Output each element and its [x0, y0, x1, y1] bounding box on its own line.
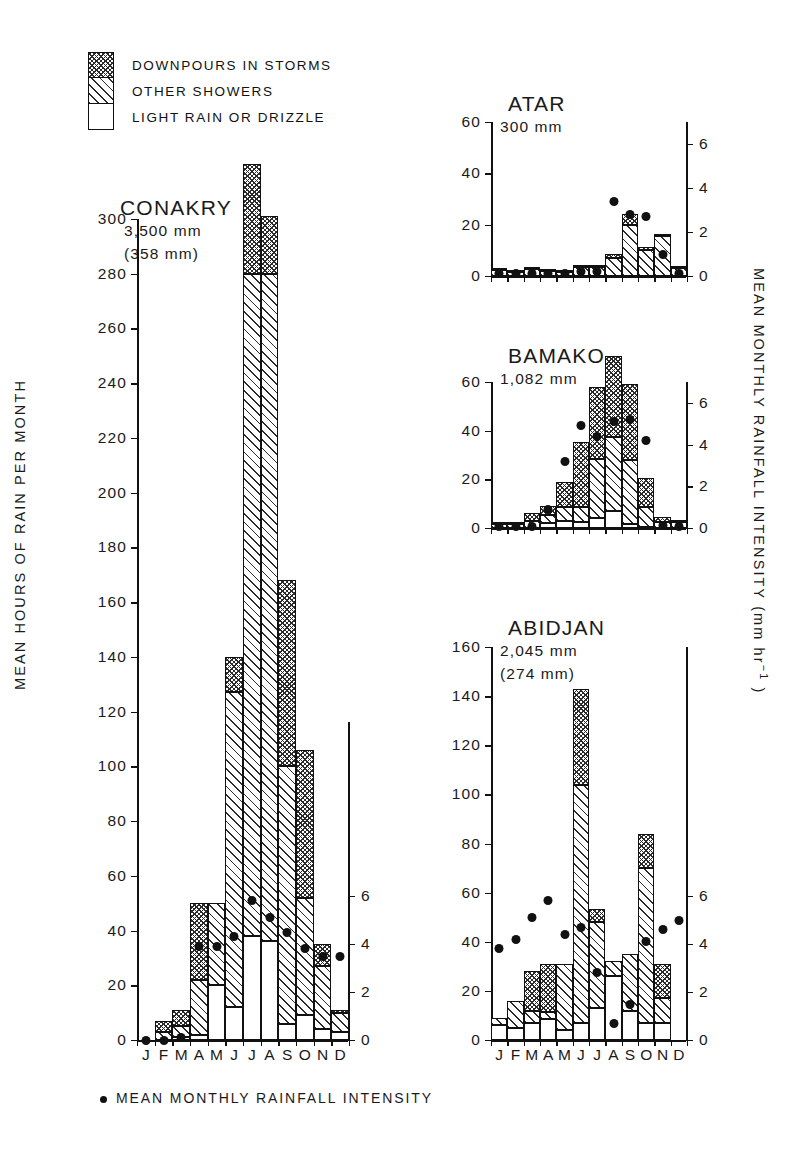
y-axis-right-tick [686, 896, 693, 897]
y-axis-tick [485, 794, 492, 795]
x-axis-month-label: A [608, 1046, 618, 1064]
bar-segment-drizzle [540, 1019, 556, 1040]
intensity-dot [544, 896, 553, 905]
intensity-dot [511, 935, 520, 944]
x-axis-month-label: F [511, 1046, 520, 1064]
y-axis-right-close: ) [751, 681, 767, 694]
x-axis-tick [638, 1040, 639, 1046]
x-axis-tick [491, 1040, 492, 1046]
bar-segment-showers [556, 964, 572, 1030]
intensity-dot [674, 916, 683, 925]
y-axis-right-text: MEAN MONTHLY RAINFALL INTENSITY (mm hr [751, 268, 767, 665]
bar-segment-showers [540, 1012, 556, 1019]
y-axis-tick-label: 100 [413, 785, 481, 803]
bar-segment-showers [491, 1018, 507, 1025]
y-axis-tick [485, 745, 492, 746]
bar-segment-drizzle [507, 1028, 523, 1040]
y-axis-right-tick [686, 944, 693, 945]
bar-segment-downpours [654, 964, 670, 998]
bar-A-3 [540, 964, 556, 1040]
y-axis-tick [485, 942, 492, 943]
y-axis-tick [485, 844, 492, 845]
y-axis-right-tick-label: 0 [699, 1031, 709, 1049]
y-axis-right-tick [686, 992, 693, 993]
bar-segment-showers [573, 785, 589, 1023]
bar-A-7 [605, 961, 621, 1040]
x-axis-month-label: A [543, 1046, 553, 1064]
bar-segment-drizzle [573, 1023, 589, 1040]
bar-segment-downpours [573, 689, 589, 785]
bar-segment-downpours [524, 971, 540, 1010]
x-axis-month-label: M [558, 1046, 571, 1064]
caption-dot-icon [100, 1096, 107, 1103]
bar-segment-drizzle [491, 1025, 507, 1040]
x-axis-tick [654, 1040, 655, 1046]
y-axis-tick [485, 893, 492, 894]
x-axis-tick [605, 1040, 606, 1046]
x-axis-month-label: J [577, 1046, 585, 1064]
y-axis-tick-label: 60 [413, 884, 481, 902]
x-axis-month-label: J [495, 1046, 503, 1064]
bar-segment-downpours [589, 909, 605, 923]
bar-segment-drizzle [622, 1011, 638, 1040]
x-axis-tick [507, 1040, 508, 1046]
bar-segment-drizzle [556, 1030, 572, 1040]
figure-root: DOWNPOURS IN STORMS OTHER SHOWERS LIGHT … [0, 0, 796, 1160]
figure-caption: MEAN MONTHLY RAINFALL INTENSITY [100, 1090, 433, 1106]
bar-segment-showers [605, 961, 621, 976]
x-axis-tick [540, 1040, 541, 1046]
y-axis-right-exponent: −1 [758, 665, 770, 682]
intensity-dot [593, 968, 602, 977]
bar-segment-drizzle [605, 976, 621, 1040]
bar-F-1 [507, 1001, 523, 1040]
intensity-dot [658, 925, 667, 934]
intensity-dot [527, 913, 536, 922]
intensity-dot [642, 937, 651, 946]
bar-M-2 [524, 971, 540, 1040]
y-axis-tick-label: 80 [413, 835, 481, 853]
panel-title-abidjan: ABIDJAN [508, 616, 605, 640]
y-axis-tick-label: 0 [413, 1031, 481, 1049]
bar-J-0 [491, 1018, 507, 1040]
x-axis-tick [671, 1040, 672, 1046]
bar-N-10 [654, 964, 670, 1040]
x-axis-month-label: N [657, 1046, 668, 1064]
intensity-dot [576, 923, 585, 932]
bar-segment-downpours [638, 834, 654, 868]
bar-segment-showers [589, 922, 605, 1008]
intensity-dot [609, 1019, 618, 1028]
x-axis-month-label: O [640, 1046, 652, 1064]
y-axis-tick-label: 120 [413, 736, 481, 754]
bar-segment-showers [654, 998, 670, 1023]
x-axis-tick [589, 1040, 590, 1046]
bar-S-8 [622, 954, 638, 1040]
y-axis-tick [485, 991, 492, 992]
panel-subtitle-max-monthly: (274 mm) [500, 665, 575, 683]
x-axis-month-label: S [625, 1046, 635, 1064]
bar-segment-drizzle [589, 1008, 605, 1040]
x-axis-tick [687, 1040, 688, 1046]
y-axis-right-tick-label: 2 [699, 983, 709, 1001]
chart-panel-abidjan: ABIDJAN2,045 mm(274 mm)02040608010012014… [0, 0, 796, 1160]
panel-subtitle-annual-rainfall: 2,045 mm [500, 642, 578, 660]
x-axis-tick [622, 1040, 623, 1046]
y-axis-right-line [686, 647, 688, 1040]
bar-segment-downpours [540, 964, 556, 1012]
x-axis-month-label: D [673, 1046, 684, 1064]
y-axis-tick-label: 20 [413, 982, 481, 1000]
y-axis-tick-label: 140 [413, 687, 481, 705]
y-axis-tick-label: 40 [413, 933, 481, 951]
y-axis-tick [485, 647, 492, 648]
bar-M-4 [556, 964, 572, 1040]
intensity-dot [560, 930, 569, 939]
bar-segment-showers [507, 1001, 523, 1028]
bar-segment-drizzle [654, 1023, 670, 1040]
y-axis-left-title: MEAN HOURS OF RAIN PER MONTH [12, 379, 28, 690]
caption-text: MEAN MONTHLY RAINFALL INTENSITY [116, 1090, 433, 1106]
bar-segment-drizzle [524, 1023, 540, 1040]
bar-segment-drizzle [638, 1023, 654, 1040]
intensity-dot [625, 1000, 634, 1009]
y-axis-right-title: MEAN MONTHLY RAINFALL INTENSITY (mm hr−1… [751, 268, 770, 695]
y-axis-right-tick-label: 6 [699, 887, 709, 905]
bar-segment-showers [524, 1011, 540, 1023]
